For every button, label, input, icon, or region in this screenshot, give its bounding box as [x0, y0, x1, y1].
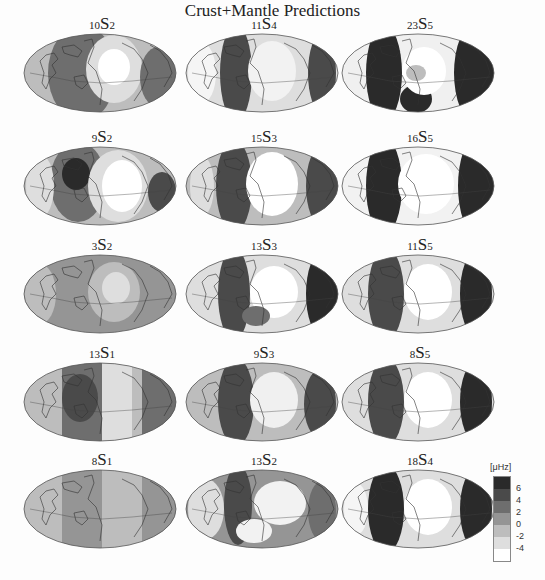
map-10S2	[22, 33, 178, 113]
mode-label: 9S2	[22, 128, 182, 147]
mode-label: 8S5	[340, 344, 500, 363]
map-8S1	[22, 469, 178, 549]
mode-label: 8S1	[22, 451, 182, 470]
colorbar-tick: 6	[516, 483, 521, 493]
mode-label: 3S2	[22, 236, 182, 255]
map-panel-11S5: 11S5	[340, 236, 500, 336]
mode-label: 13S1	[22, 344, 182, 363]
map-16S5	[340, 146, 496, 226]
colorbar-swatch	[494, 525, 510, 537]
mode-type: S	[418, 235, 427, 254]
map-panel-9S3: 9S3	[184, 344, 344, 444]
mode-label: 9S3	[184, 344, 344, 363]
map-panel-15S3: 15S3	[184, 128, 344, 228]
map-13S3	[184, 254, 340, 334]
map-18S4	[340, 469, 496, 549]
mode-label: 13S3	[184, 236, 344, 255]
map-panel-16S5: 16S5	[340, 128, 500, 228]
map-15S3	[184, 146, 340, 226]
colorbar-swatch	[494, 537, 510, 549]
colorbar-swatch	[494, 477, 510, 489]
map-23S5	[340, 33, 496, 113]
mode-label: 16S5	[340, 128, 500, 147]
map-9S2	[22, 146, 178, 226]
colorbar-unit: [μHz]	[490, 462, 511, 472]
colorbar-tick: -2	[516, 531, 524, 541]
colorbar-tick: 4	[516, 495, 521, 505]
colorbar-tick: 0	[516, 519, 521, 529]
map-panel-13S2: 13S2	[184, 451, 344, 551]
mode-label: 11S4	[184, 15, 344, 34]
map-9S3	[184, 362, 340, 442]
mode-label: 10S2	[22, 15, 182, 34]
map-panel-13S3: 13S3	[184, 236, 344, 336]
colorbar-swatch	[494, 489, 510, 501]
colorbar-tick: 2	[516, 507, 521, 517]
colorbar-scale	[493, 476, 511, 562]
map-panel-23S5: 23S5	[340, 15, 500, 115]
mode-type: S	[262, 14, 271, 33]
map-panel-8S5: 8S5	[340, 344, 500, 444]
mode-type: S	[97, 127, 106, 146]
mode-type: S	[97, 235, 106, 254]
map-panel-3S2: 3S2	[22, 236, 182, 336]
map-3S2	[22, 254, 178, 334]
map-panel-18S4: 18S4	[340, 451, 500, 551]
map-8S5	[340, 362, 496, 442]
mode-label: 23S5	[340, 15, 500, 34]
mode-label: 18S4	[340, 451, 500, 470]
map-11S4	[184, 33, 340, 113]
map-panel-10S2: 10S2	[22, 15, 182, 115]
map-13S1	[22, 362, 178, 442]
map-13S2	[184, 469, 340, 549]
mode-label: 15S3	[184, 128, 344, 147]
mode-label: 13S2	[184, 451, 344, 470]
mode-type: S	[97, 450, 106, 469]
map-panel-8S1: 8S1	[22, 451, 182, 551]
mode-label: 11S5	[340, 236, 500, 255]
map-11S5	[340, 254, 496, 334]
mode-type: S	[259, 343, 268, 362]
map-panel-11S4: 11S4	[184, 15, 344, 115]
colorbar-swatch	[494, 549, 510, 561]
mode-type: S	[415, 343, 424, 362]
colorbar-swatch	[494, 513, 510, 525]
colorbar: [μHz] 6 4 2 0 -2 -4	[490, 462, 545, 562]
map-panel-9S2: 9S2	[22, 128, 182, 228]
map-panel-13S1: 13S1	[22, 344, 182, 444]
colorbar-tick: -4	[516, 543, 524, 553]
colorbar-swatch	[494, 501, 510, 513]
